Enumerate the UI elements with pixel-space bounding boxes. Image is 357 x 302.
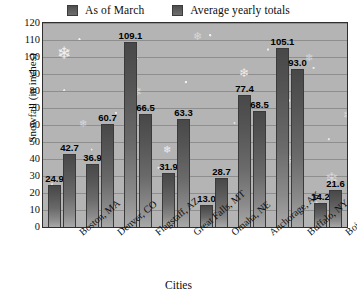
y-axis-tick-120: 120 (24, 18, 40, 28)
bar (48, 185, 61, 227)
x-axis-tick-label: Boston, MA (77, 229, 84, 237)
legend-item-as-of-march: As of March (67, 4, 144, 16)
bar-value-label: 63.3 (171, 108, 197, 118)
y-axis-tick-110: 110 (25, 35, 40, 45)
x-axis-tick-labels: Boston, MADenver, COFlagstaff, AZGreat F… (42, 229, 348, 279)
y-axis-tick-labels: 1201101009080706050403020100 (16, 22, 40, 228)
x-axis-tick-label: Anchorage, AK (267, 229, 274, 237)
bar-value-label: 77.4 (232, 84, 258, 94)
y-axis-tick-90: 90 (30, 69, 41, 79)
bar (276, 48, 289, 227)
legend-swatch-average-yearly-totals (172, 5, 183, 16)
y-axis-tick-30: 30 (30, 171, 41, 181)
legend-label-average-yearly-totals: Average yearly totals (190, 4, 290, 16)
bar-value-label: 105.1 (270, 37, 296, 47)
y-axis-tick-0: 0 (35, 222, 40, 232)
x-axis-title: Cities (0, 279, 357, 291)
bar-value-label: 66.5 (133, 103, 159, 113)
x-axis-tick-label: Omaha, NE (229, 229, 236, 237)
legend-label-as-of-march: As of March (85, 4, 144, 16)
bar-value-label: 42.7 (57, 143, 83, 153)
y-axis-tick-100: 100 (24, 52, 40, 62)
bar (124, 42, 137, 227)
chart-legend: As of March Average yearly totals (0, 0, 357, 20)
x-axis-tick-label: Flagstaff, AZ (153, 229, 160, 237)
legend-item-average-yearly-totals: Average yearly totals (172, 4, 290, 16)
y-axis-tick-80: 80 (30, 86, 41, 96)
y-axis-tick-60: 60 (30, 120, 41, 130)
x-axis-tick-label: Great Falls, MT (191, 229, 198, 237)
bar-value-label: 60.7 (95, 113, 121, 123)
bar (238, 95, 251, 227)
bar-value-label: 93.0 (285, 58, 311, 68)
x-axis-tick-label: Denver, CO (115, 229, 122, 237)
y-axis-tick-20: 20 (30, 188, 41, 198)
y-axis-tick-50: 50 (30, 137, 41, 147)
bar-value-label: 21.6 (323, 179, 349, 189)
bar-value-label: 28.7 (209, 167, 235, 177)
y-axis-tick-40: 40 (30, 154, 41, 164)
y-axis-tick-70: 70 (30, 103, 41, 113)
x-axis-tick-label: Buffalo, NY (305, 229, 312, 237)
x-axis-tick-label: Boise, ID (343, 229, 350, 237)
bar (63, 154, 76, 227)
bar-value-label: 68.5 (247, 100, 273, 110)
legend-swatch-as-of-march (67, 5, 78, 16)
bar-value-label: 109.1 (118, 31, 144, 41)
snowfall-bar-chart: As of March Average yearly totals Snowfa… (0, 0, 357, 302)
y-axis-tick-10: 10 (30, 205, 41, 215)
